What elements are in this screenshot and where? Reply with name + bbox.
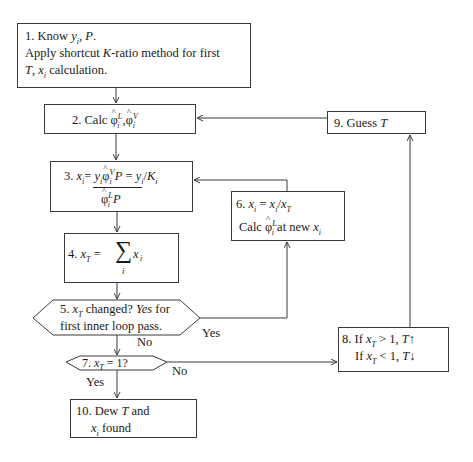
sigma-symbol: ∑ bbox=[115, 238, 132, 262]
greater-than-one: > 1, bbox=[376, 332, 402, 346]
node-5-line2: first inner loop pass. bbox=[60, 318, 170, 335]
sup-v: V bbox=[110, 168, 115, 177]
phi-hat-l: ^φ bbox=[111, 112, 118, 129]
changed-text: changed? bbox=[83, 302, 136, 316]
edge-label-7-10-yes: Yes bbox=[86, 375, 104, 390]
node-6-normalize: 6. xi = xi/xT Calc ^φLi at new xi bbox=[231, 191, 345, 241]
node-9-text: Guess bbox=[347, 116, 381, 130]
var-k: K bbox=[103, 46, 111, 60]
node-4-number: 4. bbox=[68, 247, 77, 261]
hat: ^ bbox=[102, 185, 106, 197]
edge-label-5-7-no: No bbox=[137, 335, 152, 350]
var-t: T bbox=[25, 63, 32, 77]
node-2-number: 2. bbox=[72, 113, 81, 127]
sum-index: i bbox=[122, 265, 125, 277]
node-9-guess-t: 9. Guess T bbox=[327, 111, 426, 134]
and-text: and bbox=[128, 404, 149, 418]
sub-t: T bbox=[286, 205, 290, 214]
edge-label-5-6-yes: Yes bbox=[202, 326, 220, 341]
node-3-calc-xi: 3. xi= yi^φVi P = yi/Ki ^φLi P bbox=[50, 161, 193, 212]
sub-i: i bbox=[133, 121, 135, 130]
decision-5-xt-changed: 5. xT changed? Yes for first inner loop … bbox=[60, 301, 170, 335]
fraction-bar bbox=[93, 187, 142, 188]
node-2-text: Calc bbox=[85, 113, 111, 127]
equals: = bbox=[91, 247, 101, 261]
edge-label-7-8-no: No bbox=[172, 364, 187, 379]
node-1-know-inputs: 1. Know yi, P. Apply shortcut K-ratio me… bbox=[17, 23, 251, 88]
found-text: found bbox=[99, 421, 131, 435]
equals: = bbox=[126, 169, 136, 183]
node-10-result: 10. Dew T and xi found bbox=[70, 399, 197, 438]
node-7-number: 7. bbox=[82, 356, 91, 370]
node-8-number: 8. bbox=[342, 332, 351, 346]
node-10-number: 10. bbox=[76, 404, 92, 418]
sub-i: i bbox=[140, 254, 142, 265]
arrow-down-icon: ↓ bbox=[409, 349, 415, 363]
node-6-number: 6. bbox=[236, 197, 245, 211]
if-text: If bbox=[355, 349, 366, 363]
node-1-line2-b: -ratio method for first bbox=[111, 46, 220, 60]
phi-hat-l: ^φ bbox=[265, 219, 272, 236]
node-5-number: 5. bbox=[60, 302, 69, 316]
var-x: x bbox=[133, 246, 139, 263]
node-8-adjust-t: 8. If xT > 1, T↑ If xT < 1, T↓ bbox=[338, 327, 449, 372]
var-t: T bbox=[380, 116, 387, 130]
phi-hat-v: ^φ bbox=[126, 112, 133, 129]
sub-i: i bbox=[109, 177, 111, 186]
hat: ^ bbox=[112, 106, 116, 118]
equals-one-text: = 1? bbox=[104, 356, 128, 370]
node-9-number: 9. bbox=[334, 116, 343, 130]
node-1-line3-b: calculation. bbox=[46, 63, 107, 77]
equals: = bbox=[256, 197, 269, 211]
var-p: P bbox=[113, 192, 121, 206]
node-3-number: 3. bbox=[64, 169, 73, 183]
yes-italic: Yes bbox=[136, 302, 152, 316]
calc-text: Calc bbox=[239, 220, 265, 234]
var-t: T bbox=[402, 332, 409, 346]
hat: ^ bbox=[266, 213, 270, 225]
sup-v: V bbox=[133, 112, 138, 121]
period: . bbox=[93, 29, 96, 43]
if-text: If bbox=[355, 332, 366, 346]
dew-text: Dew bbox=[95, 404, 122, 418]
phi-hat-l: ^φ bbox=[101, 191, 108, 208]
sup-l: L bbox=[108, 191, 112, 200]
edge-5-6 bbox=[200, 242, 287, 318]
sub-i: i bbox=[155, 177, 157, 186]
at-new-text: at new bbox=[274, 220, 313, 234]
edge-6-3 bbox=[194, 180, 287, 191]
hat: ^ bbox=[127, 106, 131, 118]
var-p: P bbox=[85, 29, 93, 43]
sub-i: i bbox=[319, 228, 321, 237]
node-1-text: Know bbox=[38, 29, 72, 43]
node-4-sum-xt: 4. xT = ∑ x i i bbox=[64, 233, 179, 283]
node-2-calc-fugacity: 2. Calc ^φLi ,^φVi bbox=[44, 104, 196, 134]
node-1-number: 1. bbox=[25, 29, 34, 43]
node-1-line2-a: Apply shortcut bbox=[25, 46, 103, 60]
hat: ^ bbox=[103, 162, 107, 174]
var-p: P bbox=[115, 169, 123, 183]
less-than-one: < 1, bbox=[376, 349, 402, 363]
equals: = bbox=[84, 169, 94, 183]
phi-hat-v: ^φ bbox=[102, 168, 109, 185]
for-text: for bbox=[152, 302, 170, 316]
decision-7-xt-equals-one: 7. xT = 1? bbox=[82, 355, 128, 371]
arrow-up-icon: ↑ bbox=[409, 332, 415, 346]
